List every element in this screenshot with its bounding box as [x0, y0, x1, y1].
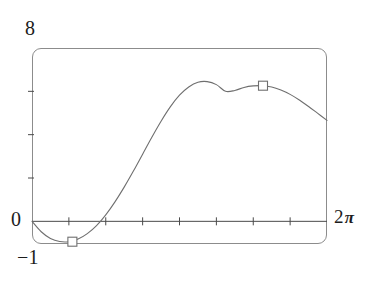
y-axis-zero-label: 0 [11, 209, 21, 229]
x-axis-max-number: 2 [334, 206, 344, 227]
x-axis-max-label: 2π [334, 207, 354, 226]
pi-symbol-icon: π [344, 208, 354, 227]
y-axis-max-label: 8 [25, 18, 35, 38]
chart-figure: 8 0 −1 2π [0, 0, 372, 290]
y-axis-min-label: −1 [17, 247, 39, 267]
plot-frame [32, 48, 327, 244]
